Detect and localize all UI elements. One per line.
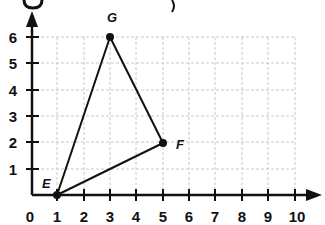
svg-text:8: 8 (238, 208, 246, 225)
svg-text:7: 7 (211, 208, 219, 225)
y-tick-labels: 1 2 3 4 5 6 (9, 29, 18, 178)
svg-text:2: 2 (9, 134, 17, 151)
point-g (106, 33, 114, 41)
clipped-glyph (24, 0, 42, 8)
svg-text:3: 3 (9, 108, 17, 125)
clipped-paren (172, 0, 174, 12)
label-g: G (107, 10, 117, 25)
svg-text:4: 4 (132, 208, 141, 225)
svg-text:2: 2 (80, 208, 88, 225)
svg-text:3: 3 (106, 208, 114, 225)
svg-text:0: 0 (26, 208, 34, 225)
point-f (159, 139, 167, 147)
grid (31, 37, 295, 195)
x-tick-labels: 0 1 2 3 4 5 6 7 8 9 10 (26, 208, 306, 225)
svg-text:9: 9 (264, 208, 272, 225)
y-axis-arrow-icon (26, 11, 38, 27)
label-f: F (176, 137, 185, 152)
svg-text:6: 6 (185, 208, 193, 225)
svg-text:5: 5 (159, 208, 167, 225)
svg-text:10: 10 (289, 208, 306, 225)
coordinate-plane: 0 1 2 3 4 5 6 7 8 9 10 1 2 3 4 5 6 E F G (0, 0, 325, 225)
svg-text:6: 6 (9, 29, 17, 46)
x-axis-arrow-icon (306, 189, 322, 201)
svg-text:4: 4 (9, 82, 18, 99)
svg-text:1: 1 (53, 208, 61, 225)
ticks (26, 37, 295, 201)
point-e (53, 191, 61, 199)
svg-text:5: 5 (9, 55, 17, 72)
svg-text:1: 1 (9, 161, 17, 178)
label-e: E (42, 176, 51, 191)
